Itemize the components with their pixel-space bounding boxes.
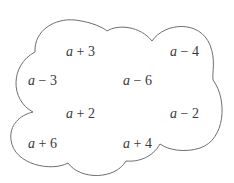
constant: 4 [145, 136, 152, 151]
expression-a-plus-4: a + 4 [123, 137, 152, 151]
variable: a [28, 136, 35, 151]
expression-a-minus-4: a − 4 [170, 45, 199, 59]
expression-a-minus-3: a − 3 [28, 74, 57, 88]
operator: + [77, 44, 85, 59]
expression-a-minus-6: a − 6 [123, 74, 152, 88]
variable: a [66, 106, 73, 121]
constant: 6 [145, 73, 152, 88]
constant: 2 [88, 106, 95, 121]
variable: a [66, 44, 73, 59]
operator: + [39, 136, 47, 151]
expression-a-plus-6: a + 6 [28, 137, 57, 151]
constant: 6 [50, 136, 57, 151]
cloud-diagram: a + 3 a − 4 a − 3 a − 6 a + 2 a − 2 a + … [0, 0, 234, 183]
operator: − [181, 106, 189, 121]
variable: a [123, 73, 130, 88]
constant: 2 [192, 106, 199, 121]
variable: a [123, 136, 130, 151]
constant: 4 [192, 44, 199, 59]
expression-a-minus-2: a − 2 [170, 107, 199, 121]
variable: a [170, 106, 177, 121]
operator: − [181, 44, 189, 59]
cloud-outline [0, 0, 234, 183]
operator: − [39, 73, 47, 88]
expression-a-plus-3: a + 3 [66, 45, 95, 59]
expression-a-plus-2: a + 2 [66, 107, 95, 121]
operator: − [134, 73, 142, 88]
operator: + [77, 106, 85, 121]
constant: 3 [50, 73, 57, 88]
operator: + [134, 136, 142, 151]
variable: a [170, 44, 177, 59]
constant: 3 [88, 44, 95, 59]
variable: a [28, 73, 35, 88]
